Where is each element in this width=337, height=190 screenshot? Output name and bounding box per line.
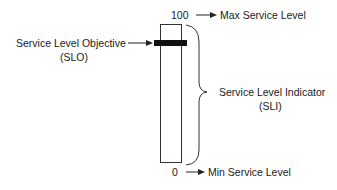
max-service-level-label: Max Service Level [220,9,306,21]
sli-label-line2: (SLI) [259,100,282,112]
slo-arrow-icon [128,40,153,46]
max-arrow-icon [196,12,217,18]
max-value: 100 [171,9,189,21]
min-arrow-icon [186,169,205,175]
sli-brace [186,25,207,165]
min-service-level-label: Min Service Level [208,166,291,178]
slo-label-line1: Service Level Objective [16,37,126,49]
slo-label-line2: (SLO) [60,51,88,63]
slo-marker [154,40,187,46]
min-value: 0 [172,166,178,178]
sli-label-line1: Service Level Indicator [219,86,325,98]
